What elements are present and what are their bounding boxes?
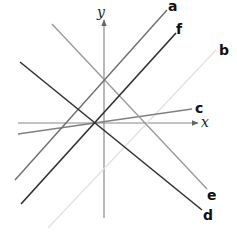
x-axis: x [18,114,209,130]
y-axis-label: y [96,4,106,20]
line-d-label: d [203,207,213,223]
x-axis-label: x [201,114,209,130]
line-e: e [52,24,217,203]
line-diagram: y x b c e a f d [0,0,237,239]
line-c-label: c [195,100,203,116]
line-b-label: b [219,42,229,58]
line-a: a [15,0,177,180]
line-a-label: a [168,0,177,14]
line-f: f [21,21,183,204]
line-b: b [48,42,229,228]
line-e-label: e [207,187,217,203]
line-f-label: f [176,21,183,37]
